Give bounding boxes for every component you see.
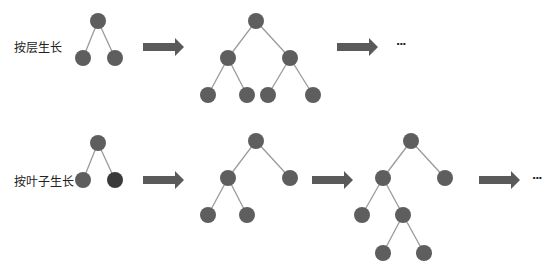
arrow-icon — [143, 38, 184, 56]
arrow-icon — [479, 171, 520, 189]
arrows — [143, 38, 520, 189]
nodes — [75, 13, 453, 261]
edges — [83, 21, 445, 253]
highlighted-leaf-node — [107, 172, 123, 188]
arrow-icon — [312, 171, 353, 189]
growth-diagram — [0, 0, 556, 273]
arrow-icon — [143, 171, 184, 189]
arrow-icon — [337, 38, 378, 56]
